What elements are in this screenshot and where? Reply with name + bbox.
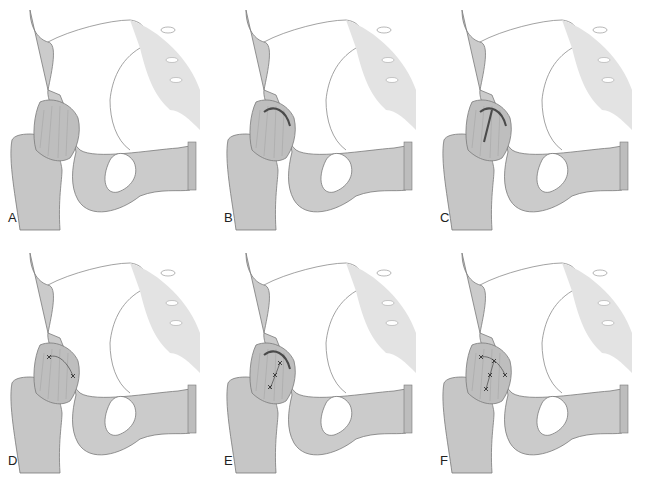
hip-illustration (0, 243, 216, 485)
hip-capsule (34, 100, 79, 161)
panel-c: C (432, 0, 648, 242)
panel-label: F (440, 453, 448, 468)
figure-grid: A B (0, 0, 648, 485)
hip-illustration (0, 0, 216, 242)
panel-b: B (216, 0, 432, 242)
panel-label: C (440, 210, 449, 225)
panel-label: B (224, 210, 233, 225)
panel-d: D (0, 243, 216, 485)
panel-f: F (432, 243, 648, 485)
panel-label: A (8, 210, 17, 225)
hip-illustration (432, 243, 648, 485)
panel-a: A (0, 0, 216, 242)
hip-illustration (216, 0, 432, 242)
panel-label: E (224, 453, 233, 468)
panel-label: D (8, 453, 17, 468)
hip-illustration (216, 243, 432, 485)
panel-e: E (216, 243, 432, 485)
hip-illustration (432, 0, 648, 242)
